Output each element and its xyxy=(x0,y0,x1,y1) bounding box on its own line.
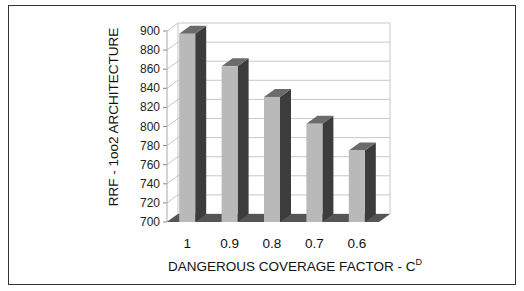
bar-front xyxy=(264,97,280,222)
gridline-side xyxy=(167,42,178,50)
bar-front xyxy=(179,34,195,222)
y-tick-label: 720 xyxy=(140,196,160,210)
y-tick-label: 840 xyxy=(140,81,160,95)
gridline-side xyxy=(167,157,178,165)
x-axis-title-superscript: D xyxy=(415,257,422,267)
bar-front xyxy=(349,150,365,222)
bar-side xyxy=(195,26,206,222)
gridline-side xyxy=(167,119,178,127)
bar-side xyxy=(238,58,249,222)
bar-front xyxy=(222,66,238,222)
y-tick-label: 880 xyxy=(140,43,160,57)
x-tick-label: 0.6 xyxy=(347,236,366,251)
gridline-side xyxy=(167,176,178,184)
x-tick-label: 0.9 xyxy=(220,236,239,251)
gridline-side xyxy=(167,61,178,69)
gridline-side xyxy=(167,23,178,31)
x-tick-label: 0.7 xyxy=(305,236,324,251)
bar-side xyxy=(365,142,376,222)
bar-front xyxy=(306,124,322,222)
x-tick-label: 1 xyxy=(183,236,191,251)
y-tick-label: 820 xyxy=(140,100,160,114)
y-tick-label: 760 xyxy=(140,158,160,172)
x-tick-label: 0.8 xyxy=(263,236,282,251)
y-axis-title: RRF - 1oo2 ARCHITECTURE xyxy=(106,28,121,207)
gridline-side xyxy=(167,138,178,146)
bar-side xyxy=(280,89,291,222)
y-tick-label: 860 xyxy=(140,62,160,76)
y-tick-label: 800 xyxy=(140,120,160,134)
gridline-side xyxy=(167,99,178,107)
y-tick-label: 900 xyxy=(140,24,160,38)
y-tick-label: 780 xyxy=(140,139,160,153)
y-tick-label: 740 xyxy=(140,177,160,191)
y-tick-label: 700 xyxy=(140,215,160,229)
gridline-side xyxy=(167,80,178,88)
chart-plot: 70072074076078080082084086088090010.90.8… xyxy=(0,0,524,291)
bar-side xyxy=(322,116,333,222)
x-axis-title: DANGEROUS COVERAGE FACTOR - CD xyxy=(130,257,460,274)
gridline-side xyxy=(167,195,178,203)
